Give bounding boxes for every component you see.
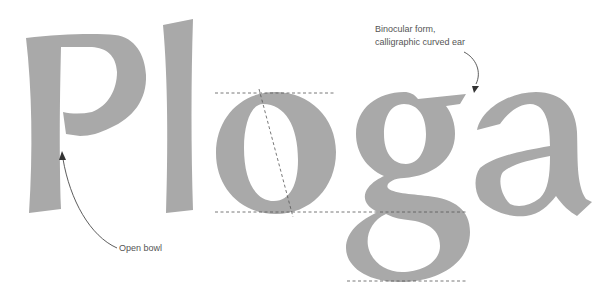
glyph-l: [163, 19, 193, 213]
ear-callout-arrow: [464, 52, 478, 84]
ear-annotation-label: Binocular form, calligraphic curved ear: [375, 23, 465, 49]
glyph-a: [476, 92, 593, 216]
arrowhead-icon: [472, 86, 479, 93]
specimen-svg: [0, 0, 615, 300]
bowl-callout-arrow: [63, 159, 117, 248]
ear-annotation-line1: Binocular form,: [375, 23, 465, 36]
type-specimen-diagram: Binocular form, calligraphic curved ear …: [0, 0, 615, 300]
arrowhead-icon: [59, 151, 66, 160]
bowl-annotation-label: Open bowl: [119, 242, 162, 255]
glyph-P: [26, 34, 146, 213]
ear-annotation-line2: calligraphic curved ear: [375, 36, 465, 49]
glyph-g: [346, 92, 470, 282]
